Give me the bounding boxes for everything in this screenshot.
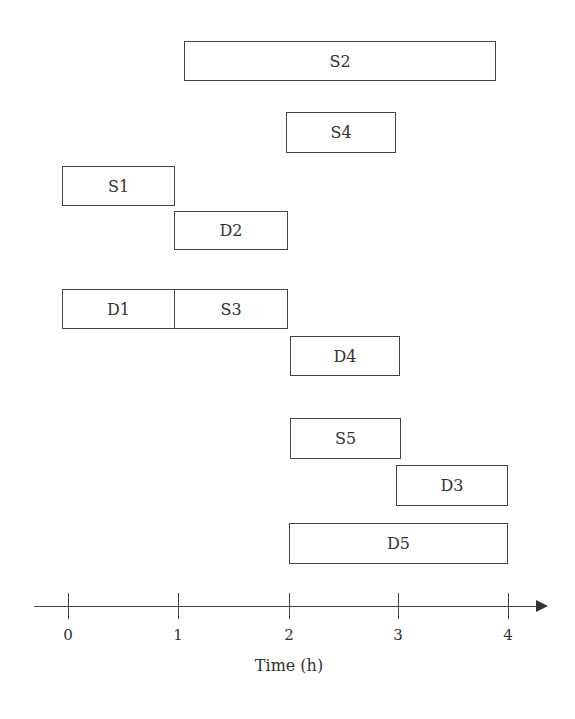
axis-arrow-icon: [536, 600, 548, 612]
tick-2: [289, 593, 290, 619]
task-box-s5: S5: [290, 418, 401, 459]
tick-label-4: 4: [498, 626, 518, 644]
task-box-d4: D4: [290, 336, 400, 376]
tick-label-3: 3: [388, 626, 408, 644]
task-box-s2: S2: [184, 41, 496, 81]
task-label-d3: D3: [440, 476, 463, 495]
task-label-s5: S5: [335, 429, 356, 448]
tick-3: [398, 593, 399, 619]
task-box-d2: D2: [174, 211, 288, 250]
tick-label-1: 1: [168, 626, 188, 644]
task-label-s4: S4: [330, 123, 351, 142]
task-label-d2: D2: [219, 221, 242, 240]
axis-title: Time (h): [229, 656, 349, 675]
task-label-d4: D4: [333, 347, 356, 366]
tick-label-2: 2: [279, 626, 299, 644]
tick-label-0: 0: [58, 626, 78, 644]
task-box-s4: S4: [286, 112, 396, 153]
task-box-s1: S1: [62, 166, 175, 206]
task-box-d1: D1: [62, 289, 175, 329]
tick-1: [178, 593, 179, 619]
task-label-d1: D1: [107, 300, 130, 319]
axis-line: [34, 606, 538, 608]
task-label-s2: S2: [329, 52, 350, 71]
task-box-d5: D5: [289, 523, 508, 564]
task-label-s3: S3: [220, 300, 241, 319]
tick-0: [68, 593, 69, 619]
tick-4: [508, 593, 509, 619]
task-box-d3: D3: [396, 465, 508, 506]
task-label-d5: D5: [387, 534, 410, 553]
task-box-s3: S3: [174, 289, 288, 329]
task-label-s1: S1: [108, 177, 129, 196]
